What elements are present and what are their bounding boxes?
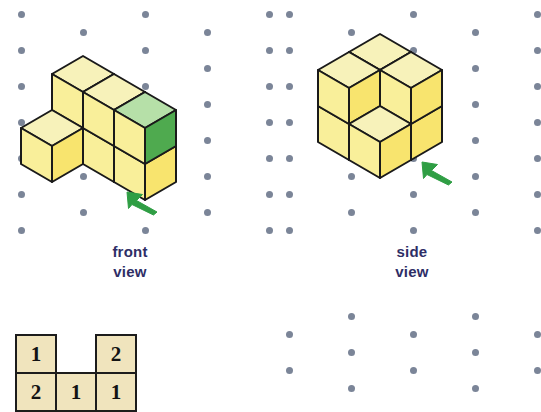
base-plan-cell: 1 (16, 335, 56, 373)
table-row: 211 (16, 373, 136, 411)
base-plan-number-grid: 12211 (15, 334, 137, 412)
base-plan-cell: 2 (96, 335, 136, 373)
side-view-label-line1: side (352, 242, 472, 262)
side-view-label: side view (352, 242, 472, 282)
base-plan-cell: 1 (56, 373, 96, 411)
base-plan-cell: 1 (96, 373, 136, 411)
base-plan-cell: 2 (16, 373, 56, 411)
table-row: 12 (16, 335, 136, 373)
side-view-label-line2: view (352, 262, 472, 282)
front-view-label: front view (70, 242, 190, 282)
front-view-label-line1: front (70, 242, 190, 262)
direction-arrow (422, 162, 452, 185)
base-plan-cell-empty (56, 335, 96, 373)
front-view-label-line2: view (70, 262, 190, 282)
